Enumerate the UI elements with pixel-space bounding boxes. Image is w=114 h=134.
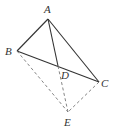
segment-AB [17,19,48,51]
label-B: B [5,45,12,57]
segment-CE [68,82,99,112]
label-D: D [60,69,69,81]
label-A: A [43,3,51,15]
label-E: E [63,116,71,128]
geometry-diagram: A B C D E [0,0,114,134]
label-C: C [101,77,109,89]
